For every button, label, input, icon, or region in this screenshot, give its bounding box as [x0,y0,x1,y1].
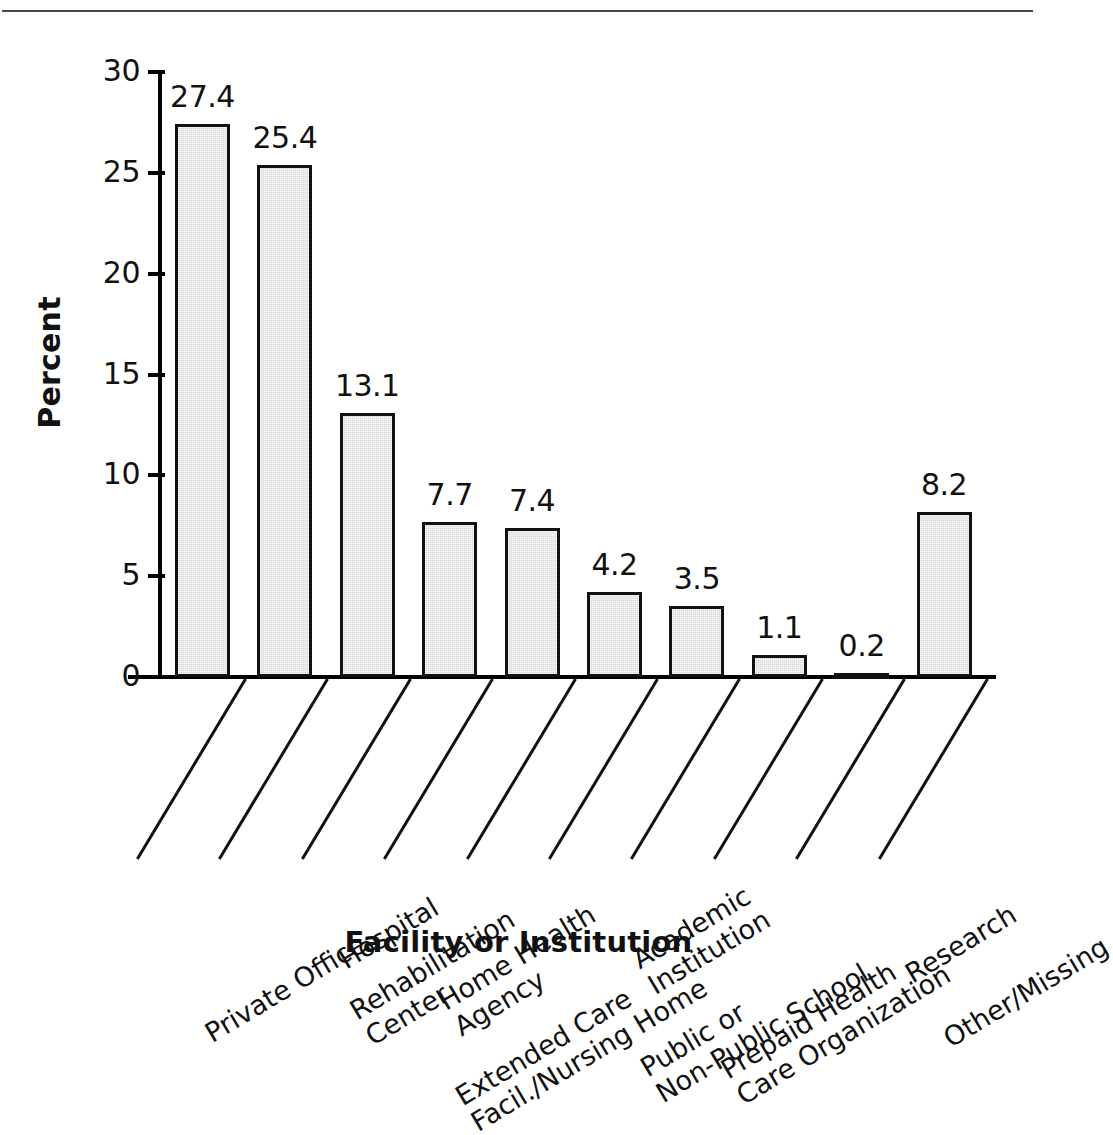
y-axis-tick-mark [148,70,165,74]
bar [340,413,395,677]
bar-value-label: 1.1 [734,613,824,643]
y-axis-tick-label-wrap: 25 [0,157,140,187]
category-leader-line [548,678,659,860]
category-leader-line [630,678,741,860]
category-leader-line [136,678,247,860]
bar-value-label: 0.2 [817,631,907,661]
y-axis-tick-label: 30 [94,56,140,86]
category-leader-line [795,678,906,860]
bar-value-label: 27.4 [158,82,248,112]
category-leader-line [301,678,412,860]
category-leader-line [466,678,577,860]
bar [505,528,560,677]
bar [669,606,724,677]
bar [257,165,312,677]
bar-value-label: 4.2 [570,550,660,580]
bar-value-label: 25.4 [240,123,330,153]
bar [917,512,972,677]
bar-value-label: 8.2 [899,470,989,500]
y-axis-tick-label-wrap: 5 [0,560,140,590]
y-axis-tick-mark [148,574,165,578]
bar [422,522,477,677]
y-axis-tick-mark [148,373,165,377]
y-axis-tick-label-wrap: 20 [0,258,140,288]
y-axis-tick-label: 0 [94,661,140,691]
bar [587,592,642,677]
y-axis-tick-label: 20 [94,258,140,288]
y-axis-tick-mark [148,675,165,679]
bar [834,673,889,679]
y-axis-tick-mark [148,272,165,276]
bar [752,655,807,677]
y-axis-tick-label-wrap: 15 [0,359,140,389]
y-axis-title: Percent [32,273,67,453]
category-leader-line [218,678,329,860]
bar-value-label: 7.4 [487,486,577,516]
bar [175,124,230,677]
y-axis-tick-label: 5 [94,560,140,590]
x-axis-title: Facility or Institution [0,925,1037,959]
y-axis-tick-mark [148,473,165,477]
y-axis-tick-label: 25 [94,157,140,187]
y-axis-tick-label-wrap: 10 [0,459,140,489]
y-axis-tick-label: 15 [94,359,140,389]
bar-value-label: 3.5 [652,564,742,594]
bar-value-label: 7.7 [405,480,495,510]
y-axis-tick-label-wrap: 0 [0,661,140,691]
y-axis-tick-label: 10 [94,459,140,489]
category-leader-line [878,678,989,860]
y-axis-tick-label-wrap: 30 [0,56,140,86]
y-axis-tick-mark [148,171,165,175]
category-leader-line [713,678,824,860]
bar-value-label: 13.1 [322,371,412,401]
category-leader-line [383,678,494,860]
